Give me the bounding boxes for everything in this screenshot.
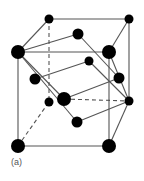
atom-inner-top (73, 29, 84, 40)
atom-inner-bottom (72, 117, 83, 128)
atom-front-top-right (102, 45, 116, 59)
atom-inner-left (30, 74, 41, 85)
atom-center (57, 92, 71, 106)
hidden-bond-line (18, 102, 49, 146)
atom-back-bottom-right (125, 97, 134, 106)
atom-inner-upper-mid (85, 57, 94, 66)
atom-inner-right (114, 73, 125, 84)
bond-line (64, 78, 119, 99)
atom-back-bottom-left (45, 98, 54, 107)
atom-front-bottom-left (11, 139, 25, 153)
figure-label: (a) (11, 157, 22, 167)
atom-back-top-left (45, 15, 54, 24)
hcp-crystal-diagram (0, 0, 144, 181)
bond-line (18, 52, 64, 99)
atom-back-top-right (125, 15, 134, 24)
bond-line (18, 52, 77, 122)
bond-line (35, 61, 89, 79)
atom-front-top-left (11, 45, 25, 59)
atom-front-bottom-right (102, 139, 116, 153)
hidden-bond-line (64, 99, 129, 101)
